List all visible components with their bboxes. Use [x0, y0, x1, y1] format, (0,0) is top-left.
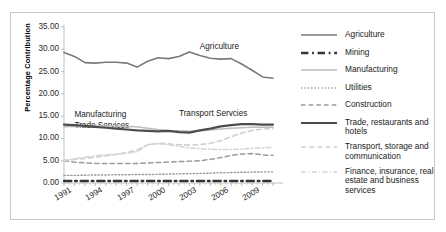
legend-label: Transport, storage and communication	[345, 141, 445, 161]
legend-swatch-2	[299, 47, 339, 59]
legend-item[interactable]: Manufacturing	[299, 64, 445, 77]
legend-swatch-3	[299, 64, 339, 76]
chart-figure: Percentage Contribution 35.0030.0025.002…	[0, 0, 446, 232]
legend-item[interactable]: Utilities	[299, 82, 445, 95]
legend-swatch-1	[299, 29, 339, 41]
legend-item[interactable]: Trade, restaurants and hotels	[299, 117, 445, 137]
legend-label: Mining	[345, 47, 369, 58]
series-line	[64, 154, 273, 164]
legend-swatch-7	[299, 141, 339, 153]
chart-legend: AgricultureMiningManufacturingUtilitiesC…	[299, 29, 445, 200]
legend-item[interactable]: Mining	[299, 47, 445, 60]
legend-item[interactable]: Agriculture	[299, 29, 445, 42]
legend-item[interactable]: Transport, storage and communication	[299, 141, 445, 161]
legend-swatch-8	[299, 166, 339, 178]
legend-item[interactable]: Finance, insurance, real estate and busi…	[299, 166, 445, 196]
series-line	[64, 52, 273, 78]
chart-frame: Percentage Contribution 35.0030.0025.002…	[10, 12, 435, 220]
legend-swatch-5	[299, 99, 339, 111]
legend-label: Utilities	[345, 82, 372, 93]
legend-label: Finance, insurance, real estate and busi…	[345, 166, 445, 196]
legend-label: Manufacturing	[345, 64, 398, 75]
series-line	[64, 172, 273, 176]
legend-swatch-6	[299, 117, 339, 129]
legend-label: Construction	[345, 99, 392, 110]
legend-item[interactable]: Construction	[299, 99, 445, 112]
legend-label: Agriculture	[345, 29, 385, 40]
legend-label: Trade, restaurants and hotels	[345, 117, 445, 137]
series-line	[64, 144, 273, 161]
legend-swatch-4	[299, 82, 339, 94]
